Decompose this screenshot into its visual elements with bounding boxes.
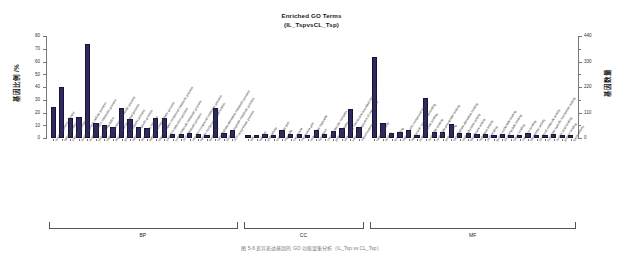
x-tick-46 — [460, 139, 461, 141]
x-tick-8 — [122, 139, 123, 141]
y-ticklabel-left-80: 80 — [24, 33, 40, 38]
y-tick-left-30 — [43, 100, 46, 101]
x-tick-0 — [53, 139, 54, 141]
y-tick-left-50 — [43, 74, 46, 75]
y-ticklabel-left-0: 0 — [24, 135, 40, 140]
y-ticklabel-left-30: 30 — [24, 97, 40, 102]
x-tick-2 — [70, 139, 71, 141]
x-tick-29 — [308, 139, 309, 141]
x-tick-57 — [554, 139, 555, 141]
x-tick-28 — [299, 139, 300, 141]
x-tick-53 — [520, 139, 521, 141]
group-bracket-end — [370, 222, 371, 229]
x-tick-52 — [511, 139, 512, 141]
x-tick-58 — [562, 139, 563, 141]
y-minor-tick-right-6 — [579, 62, 581, 63]
y-ticklabel-left-20: 20 — [24, 110, 40, 115]
y-ticklabel-right-220: 220 — [584, 84, 602, 89]
group-label-mf: MF — [453, 232, 493, 238]
x-tick-36 — [374, 139, 375, 141]
x-tick-26 — [282, 139, 283, 141]
x-tick-48 — [477, 139, 478, 141]
x-tick-37 — [383, 139, 384, 141]
x-tick-49 — [485, 139, 486, 141]
y-ticklabel-right-440: 440 — [584, 33, 602, 38]
y-ticklabel-left-40: 40 — [24, 84, 40, 89]
y-tick-left-10 — [43, 125, 46, 126]
x-tick-5 — [96, 139, 97, 141]
x-tick-38 — [392, 139, 393, 141]
bar-0[interactable] — [51, 107, 56, 138]
x-tick-33 — [342, 139, 343, 141]
x-tick-31 — [325, 139, 326, 141]
y-minor-tick-right-7 — [579, 49, 581, 50]
y-tick-left-0 — [43, 138, 46, 139]
x-tick-40 — [409, 139, 410, 141]
y-axis-right-label: 基因数量 — [602, 51, 612, 115]
group-bracket-line — [244, 228, 363, 229]
y-ticklabel-left-50: 50 — [24, 72, 40, 77]
x-tick-59 — [571, 139, 572, 141]
x-tick-20 — [224, 139, 225, 141]
x-tick-18 — [207, 139, 208, 141]
y-ticklabel-right-0: 0 — [584, 135, 602, 140]
y-ticklabel-right-110: 110 — [584, 110, 602, 115]
y-minor-tick-right-5 — [579, 74, 581, 75]
x-tick-1 — [62, 139, 63, 141]
x-tick-44 — [443, 139, 444, 141]
x-tick-50 — [494, 139, 495, 141]
x-tick-4 — [87, 139, 88, 141]
x-tick-7 — [113, 139, 114, 141]
y-tick-left-80 — [43, 36, 46, 37]
y-minor-tick-right-2 — [579, 113, 581, 114]
x-tick-15 — [181, 139, 182, 141]
x-tick-11 — [147, 139, 148, 141]
x-tick-30 — [316, 139, 317, 141]
group-label-cc: CC — [283, 232, 323, 238]
y-ticklabel-left-70: 70 — [24, 46, 40, 51]
x-tick-21 — [232, 139, 233, 141]
go-enrichment-chart: Enriched GO Terms (IL_TspvsCL_Tsp) 基因比例 … — [0, 0, 623, 257]
x-tick-32 — [333, 139, 334, 141]
x-tick-45 — [451, 139, 452, 141]
y-minor-tick-right-8 — [579, 36, 581, 37]
figure-caption: 图 5-6 差异表达基因的 GO 功能富集分析（IL_Tsp vs CL_Tsp… — [0, 244, 623, 251]
x-tick-16 — [190, 139, 191, 141]
group-bracket-end — [237, 222, 238, 229]
x-tick-14 — [173, 139, 174, 141]
group-bracket-end — [575, 222, 576, 229]
y-tick-left-70 — [43, 49, 46, 50]
x-tick-12 — [156, 139, 157, 141]
x-tick-3 — [79, 139, 80, 141]
y-minor-tick-right-0 — [579, 138, 581, 139]
x-tick-41 — [417, 139, 418, 141]
x-tick-51 — [502, 139, 503, 141]
x-tick-47 — [468, 139, 469, 141]
group-bracket-line — [49, 228, 237, 229]
x-tick-25 — [274, 139, 275, 141]
x-tick-27 — [291, 139, 292, 141]
group-bracket-line — [370, 228, 575, 229]
group-bracket-end — [363, 222, 364, 229]
y-axis-left-label: 基因比例 /% — [11, 51, 21, 115]
y-tick-left-20 — [43, 113, 46, 114]
group-bracket-end — [49, 222, 50, 229]
y-minor-tick-right-4 — [579, 87, 581, 88]
x-tick-22 — [248, 139, 249, 141]
y-ticklabel-left-60: 60 — [24, 59, 40, 64]
y-ticklabel-right-330: 330 — [584, 59, 602, 64]
x-tick-13 — [164, 139, 165, 141]
x-axis-tick-label-22: cell — [249, 136, 255, 142]
y-tick-left-40 — [43, 87, 46, 88]
group-label-bp: BP — [123, 232, 163, 238]
y-tick-left-60 — [43, 62, 46, 63]
x-tick-54 — [528, 139, 529, 141]
x-tick-23 — [257, 139, 258, 141]
x-tick-19 — [215, 139, 216, 141]
x-tick-56 — [545, 139, 546, 141]
x-tick-55 — [537, 139, 538, 141]
x-tick-10 — [139, 139, 140, 141]
x-tick-6 — [104, 139, 105, 141]
y-axis-left-line — [46, 36, 47, 139]
x-tick-34 — [350, 139, 351, 141]
